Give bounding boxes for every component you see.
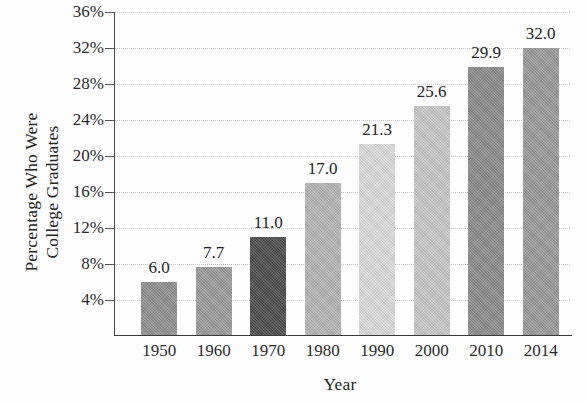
y-tick-mark bbox=[105, 228, 114, 229]
bar-group[interactable]: 7.7 bbox=[196, 12, 232, 336]
bar-group[interactable]: 29.9 bbox=[468, 12, 504, 336]
y-tick-mark bbox=[105, 12, 114, 13]
y-tick-mark bbox=[105, 120, 114, 121]
bar[interactable] bbox=[468, 67, 504, 336]
y-tick-label: 28% bbox=[52, 74, 104, 94]
bar[interactable] bbox=[414, 106, 450, 336]
bars-layer: 6.07.711.017.021.325.629.932.0 bbox=[114, 12, 566, 336]
y-tick-label: 16% bbox=[52, 182, 104, 202]
y-tick-mark bbox=[105, 84, 114, 85]
bar[interactable] bbox=[250, 237, 286, 336]
bar[interactable] bbox=[141, 282, 177, 336]
x-tick-label: 1960 bbox=[197, 341, 231, 361]
y-tick-mark bbox=[105, 264, 114, 265]
bar-group[interactable]: 21.3 bbox=[359, 12, 395, 336]
y-axis-title-line-1: Percentage Who Were bbox=[21, 112, 42, 271]
x-axis-line bbox=[114, 335, 572, 336]
bar-value-label: 7.7 bbox=[182, 243, 246, 263]
bar-chart: Percentage Who Were College Graduates 4%… bbox=[0, 0, 586, 403]
y-tick-label: 20% bbox=[52, 146, 104, 166]
y-tick-mark bbox=[105, 156, 114, 157]
bar-group[interactable]: 32.0 bbox=[523, 12, 559, 336]
y-axis-line bbox=[114, 12, 115, 336]
bar-group[interactable]: 6.0 bbox=[141, 12, 177, 336]
y-tick-label: 24% bbox=[52, 110, 104, 130]
bar-value-label: 21.3 bbox=[345, 120, 409, 140]
bar-value-label: 11.0 bbox=[236, 213, 300, 233]
bar-group[interactable]: 11.0 bbox=[250, 12, 286, 336]
bar[interactable] bbox=[523, 48, 559, 336]
x-tick-label: 2000 bbox=[415, 341, 449, 361]
bar[interactable] bbox=[359, 144, 395, 336]
y-tick-mark bbox=[105, 192, 114, 193]
x-axis-title: Year bbox=[114, 374, 566, 395]
y-axis-tick-labels: 4%8%12%16%20%24%28%32%36% bbox=[52, 0, 104, 340]
x-tick-label: 1950 bbox=[142, 341, 176, 361]
y-tick-mark bbox=[105, 300, 114, 301]
x-tick-label: 2014 bbox=[524, 341, 558, 361]
bar-value-label: 29.9 bbox=[454, 43, 518, 63]
y-tick-label: 36% bbox=[52, 2, 104, 22]
x-tick-label: 1990 bbox=[360, 341, 394, 361]
bar[interactable] bbox=[305, 183, 341, 336]
y-tick-label: 12% bbox=[52, 218, 104, 238]
y-tick-label: 8% bbox=[52, 254, 104, 274]
bar[interactable] bbox=[196, 267, 232, 336]
bar-group[interactable]: 17.0 bbox=[305, 12, 341, 336]
bar-value-label: 17.0 bbox=[291, 159, 355, 179]
x-tick-label: 2010 bbox=[469, 341, 503, 361]
y-tick-mark bbox=[105, 48, 114, 49]
bar-group[interactable]: 25.6 bbox=[414, 12, 450, 336]
bar-value-label: 32.0 bbox=[509, 24, 573, 44]
bar-value-label: 25.6 bbox=[400, 82, 464, 102]
x-axis-tick-labels: 19501960197019801990200020102014 bbox=[114, 341, 572, 367]
y-tick-label: 32% bbox=[52, 38, 104, 58]
x-tick-label: 1980 bbox=[306, 341, 340, 361]
plot-area: 6.07.711.017.021.325.629.932.0 bbox=[114, 12, 566, 336]
x-tick-label: 1970 bbox=[251, 341, 285, 361]
y-tick-label: 4% bbox=[52, 290, 104, 310]
